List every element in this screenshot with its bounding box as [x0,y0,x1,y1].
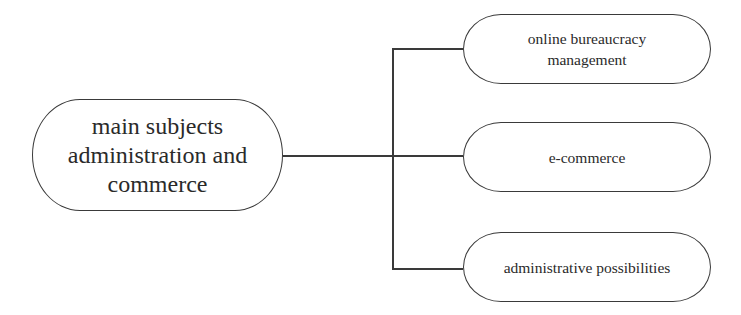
connector-trunk [392,48,394,269]
child-node-administrative-possibilities: administrative possibilities [463,232,711,302]
child-node-online-bureaucracy-management: online bureaucracy management [463,14,711,84]
child-node-1-line-1: online bureaucracy [528,28,646,49]
child-node-1-text: online bureaucracy management [528,28,646,70]
child-node-2-label: e-commerce [549,147,626,168]
child-node-1-line-2: management [528,49,646,70]
connector-root-to-trunk [283,155,463,157]
connector-trunk-to-child-3 [392,268,463,270]
child-node-e-commerce: e-commerce [463,122,711,192]
mind-map-diagram: main subjects administration and commerc… [0,0,741,315]
root-node-line-2: administration and [68,141,247,170]
child-node-3-label: administrative possibilities [504,257,671,278]
root-node-line-1: main subjects [68,112,247,141]
root-node: main subjects administration and commerc… [32,99,283,211]
root-node-line-3: commerce [68,170,247,199]
connector-trunk-to-child-1 [392,48,463,50]
root-node-text: main subjects administration and commerc… [68,112,247,199]
